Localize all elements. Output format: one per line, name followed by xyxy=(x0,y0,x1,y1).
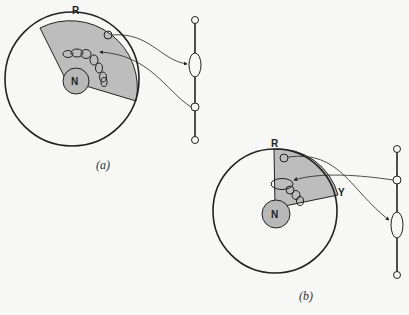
nucleus-label-b: N xyxy=(271,209,278,220)
caption-b: (b) xyxy=(299,289,313,303)
nucleus-label-a: N xyxy=(71,76,78,87)
figure-canvas: N R (a) N R Y xyxy=(0,0,409,315)
marker-mid-b xyxy=(393,176,401,184)
side-label-b: Y xyxy=(338,187,345,198)
marker-mid-a xyxy=(191,103,199,111)
panel-b: N R Y (b) xyxy=(213,138,403,303)
top-label-a: R xyxy=(72,5,80,16)
locus-ellipse-a xyxy=(189,53,201,77)
marker-top-b xyxy=(394,146,401,153)
marker-top-a xyxy=(192,17,199,24)
marker-bottom-b xyxy=(394,272,401,279)
marker-bottom-a xyxy=(192,137,199,144)
caption-a: (a) xyxy=(96,158,110,172)
panel-a: N R (a) xyxy=(5,5,201,172)
locus-ellipse-b xyxy=(391,212,403,238)
shaded-sector-a xyxy=(40,21,137,101)
top-label-b: R xyxy=(271,138,279,149)
